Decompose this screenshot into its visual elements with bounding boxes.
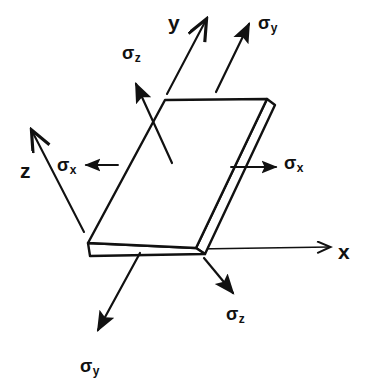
sigma-y-bottom-arrow: [98, 253, 140, 330]
y-axis-label: y: [168, 12, 180, 33]
sigma-subscript: z: [135, 51, 141, 65]
sigma-subscript: z: [239, 312, 245, 326]
z-axis-line: [32, 131, 84, 232]
x-axis-line: [196, 247, 330, 249]
stress-element-figure: x y z σx σx σy σy σz σz: [0, 0, 385, 391]
z-axis-label: z: [20, 160, 31, 181]
sigma-z-bottom-arrow: [204, 258, 233, 293]
sigma-x-right-label: σx: [284, 154, 304, 174]
sigma-subscript: y: [93, 364, 100, 378]
x-axis-label: x: [338, 241, 350, 262]
sigma-z-bottom-label: σz: [226, 305, 245, 325]
sigma-symbol: σ: [122, 43, 134, 63]
sigma-subscript: x: [297, 161, 304, 175]
sigma-y-bottom-label: σy: [80, 357, 100, 377]
sigma-y-top-arrow: [216, 24, 249, 92]
stress-element-body: [88, 99, 275, 256]
sigma-symbol: σ: [284, 153, 296, 173]
sigma-symbol: σ: [80, 356, 92, 376]
sigma-z-top-label: σz: [122, 44, 141, 64]
sigma-y-top-label: σy: [258, 14, 278, 34]
sigma-symbol: σ: [258, 13, 270, 33]
sigma-subscript: y: [271, 21, 278, 35]
sigma-symbol: σ: [57, 155, 69, 175]
sigma-symbol: σ: [226, 304, 238, 324]
sigma-subscript: x: [70, 163, 77, 177]
sigma-x-left-label: σx: [57, 156, 77, 176]
stress-diagram-canvas: [0, 0, 385, 391]
